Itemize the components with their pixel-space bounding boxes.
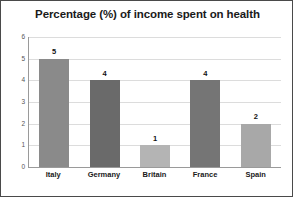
x-axis-tick-label: Britain: [129, 171, 180, 179]
bar-value-label: 5: [52, 48, 56, 56]
y-axis-tick-labels: 6543210: [15, 37, 28, 167]
x-axis-tick-label: Italy: [28, 171, 79, 179]
bar[interactable]: [39, 59, 69, 167]
bar[interactable]: [190, 80, 220, 167]
bar-slot: 2: [231, 37, 281, 167]
bar-slot: 4: [180, 37, 230, 167]
x-axis-tick-label: Spain: [230, 171, 281, 179]
bars-layer: 54142: [29, 37, 281, 167]
bar[interactable]: [90, 80, 120, 167]
plot-area: 54142: [28, 37, 281, 168]
bar-value-label: 4: [103, 70, 107, 78]
plot-wrapper: 6543210 54142: [15, 37, 281, 167]
x-axis-category-labels: ItalyGermanyBritainFranceSpain: [28, 171, 281, 179]
chart-title: Percentage (%) of income spent on health: [1, 8, 293, 20]
y-axis-tick-label: 1: [21, 142, 25, 149]
bar-slot: 5: [29, 37, 79, 167]
bar-value-label: 1: [153, 135, 157, 143]
y-axis-tick-label: 5: [21, 55, 25, 62]
y-axis-tick-label: 2: [21, 120, 25, 127]
bar[interactable]: [140, 145, 170, 167]
bar-slot: 1: [130, 37, 180, 167]
bar-slot: 4: [79, 37, 129, 167]
chart-frame: Percentage (%) of income spent on health…: [0, 0, 293, 197]
y-axis-tick-label: 6: [21, 34, 25, 41]
bar[interactable]: [241, 124, 271, 167]
y-axis-tick-label: 3: [21, 99, 25, 106]
bar-value-label: 4: [203, 70, 207, 78]
x-axis-tick-label: France: [180, 171, 231, 179]
bar-value-label: 2: [254, 113, 258, 121]
x-axis-tick-label: Germany: [79, 171, 130, 179]
y-axis-tick-label: 0: [21, 164, 25, 171]
y-axis-tick-label: 4: [21, 77, 25, 84]
